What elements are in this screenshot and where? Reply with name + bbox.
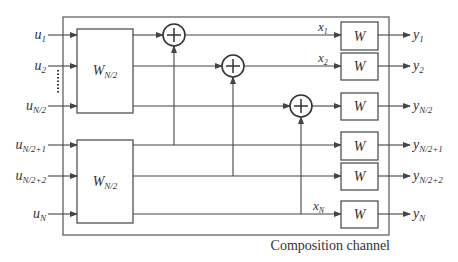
xor-node-2: [222, 55, 244, 77]
composition-channel-diagram: u1 u2 uN/2 uN/2+1 uN/2+2 uN WN/2 WN/2 x1…: [0, 0, 458, 262]
svg-text:y2: y2: [411, 58, 424, 75]
output-arrows: [378, 35, 410, 214]
diagram-caption: Composition channel: [271, 238, 390, 253]
intermediate-labels: x1 x2 xN: [312, 19, 328, 215]
channel-boxes: [341, 22, 378, 228]
input-labels: u1 u2 uN/2 uN/2+1 uN/2+2 uN: [15, 27, 47, 223]
xor-node-3: [290, 95, 312, 117]
svg-text:W: W: [354, 207, 367, 222]
svg-text:y1: y1: [411, 27, 424, 44]
svg-text:x2: x2: [317, 50, 328, 67]
svg-text:uN/2+1: uN/2+1: [15, 137, 46, 154]
svg-text:yN/2+2: yN/2+2: [411, 168, 443, 185]
svg-text:uN/2+2: uN/2+2: [15, 168, 46, 185]
xor-node-1: [163, 24, 185, 46]
svg-text:W: W: [354, 59, 367, 74]
svg-text:x1: x1: [317, 19, 328, 36]
svg-text:W: W: [354, 139, 367, 154]
svg-text:W: W: [354, 99, 367, 114]
svg-text:yN/2: yN/2: [411, 98, 433, 115]
svg-text:u1: u1: [35, 27, 47, 44]
output-labels: y1 y2 yN/2 yN/2+1 yN/2+2 yN: [411, 27, 443, 223]
svg-text:uN/2: uN/2: [26, 98, 47, 115]
svg-text:uN: uN: [33, 206, 47, 223]
svg-text:yN/2+1: yN/2+1: [411, 137, 443, 154]
svg-text:u2: u2: [35, 58, 47, 75]
svg-text:yN: yN: [411, 206, 426, 223]
svg-text:W: W: [354, 29, 367, 44]
svg-text:xN: xN: [312, 198, 325, 215]
svg-text:W: W: [354, 169, 367, 184]
